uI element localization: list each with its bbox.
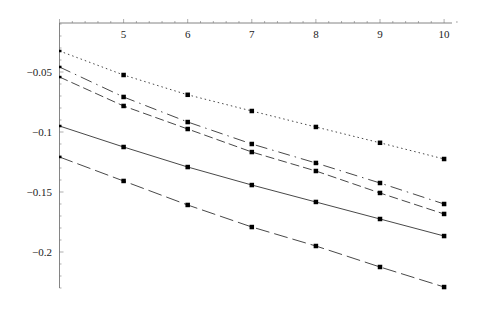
x-tick-label: 10 xyxy=(439,28,451,40)
data-point-marker xyxy=(442,157,447,162)
data-point-marker xyxy=(185,165,190,170)
y-tick-label: −0.05 xyxy=(27,66,53,78)
series-long-dash xyxy=(59,156,446,290)
data-point-marker xyxy=(121,104,126,109)
data-point-marker xyxy=(121,179,126,184)
data-point-marker xyxy=(442,285,447,290)
data-point-marker xyxy=(378,265,383,270)
series-line xyxy=(60,157,445,287)
data-point-marker xyxy=(121,95,126,100)
x-tick-label: 8 xyxy=(313,28,319,40)
data-point-marker xyxy=(378,191,383,196)
data-point-marker xyxy=(250,225,255,230)
data-point-marker xyxy=(121,73,126,78)
data-point-marker xyxy=(314,125,319,129)
data-point-marker xyxy=(314,244,319,249)
data-point-marker xyxy=(250,183,255,188)
data-point-marker xyxy=(250,109,255,114)
data-point-marker xyxy=(59,125,62,128)
data-point-marker xyxy=(314,161,319,166)
data-point-marker xyxy=(378,141,383,146)
data-point-marker xyxy=(59,156,62,159)
line-chart: 5678910−0.05−0.1−0.15−0.2 xyxy=(0,0,479,313)
y-tick-label: −0.1 xyxy=(32,126,52,138)
y-tick-label: −0.15 xyxy=(27,186,53,198)
data-point-marker xyxy=(250,142,255,147)
data-point-marker xyxy=(442,212,447,217)
x-tick-label: 6 xyxy=(185,28,191,40)
data-point-marker xyxy=(185,127,190,132)
data-point-marker xyxy=(442,202,447,207)
data-point-marker xyxy=(121,145,126,150)
data-point-marker xyxy=(185,93,190,98)
data-point-marker xyxy=(250,150,255,155)
data-point-marker xyxy=(378,181,383,186)
x-tick-label: 9 xyxy=(377,28,383,40)
x-tick-label: 7 xyxy=(249,28,255,40)
series-group xyxy=(59,50,446,290)
data-point-marker xyxy=(314,200,319,205)
data-point-marker xyxy=(59,66,62,69)
data-point-marker xyxy=(59,76,62,79)
data-point-marker xyxy=(59,50,62,53)
y-tick-label: −0.2 xyxy=(32,246,52,258)
x-tick-label: 5 xyxy=(121,28,127,40)
data-point-marker xyxy=(185,120,190,125)
data-point-marker xyxy=(185,203,190,208)
data-point-marker xyxy=(314,169,319,174)
data-point-marker xyxy=(378,217,383,222)
data-point-marker xyxy=(442,234,447,239)
axes: 5678910−0.05−0.1−0.15−0.2 xyxy=(27,19,457,288)
